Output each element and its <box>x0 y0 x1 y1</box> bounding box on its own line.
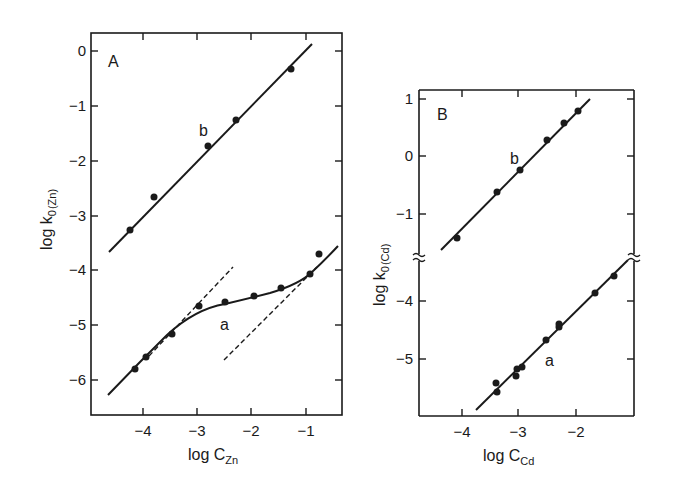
panel-b-series-a-label: a <box>545 352 554 369</box>
panel-a-ytick-label: −1 <box>69 97 86 114</box>
panel-a-xtick-label: −1 <box>297 422 314 439</box>
panel-b: −4 −3 −2 1 0 −1 −4 −5 B log CCd log k0(C… <box>371 90 640 467</box>
panel-b-x-axis-title: log CCd <box>483 447 534 467</box>
panel-a-y-ticks <box>91 51 342 380</box>
panel-b-xtick-label: −3 <box>509 423 526 440</box>
figure: −4 −3 −2 −1 0 −1 −2 −3 −4 −5 −6 A log CZ… <box>0 0 676 494</box>
panel-a-xtick-label: −3 <box>188 422 205 439</box>
panel-a-label: A <box>108 53 119 70</box>
panel-b-label: B <box>437 106 448 123</box>
panel-a-ytick-label: −6 <box>69 371 86 388</box>
panel-b-ytick-label: −4 <box>396 292 413 309</box>
panel-a-ytick-label: −2 <box>69 152 86 169</box>
panel-a-asymptote-lower <box>224 267 317 360</box>
panel-a-asymptote-upper <box>149 267 233 356</box>
panel-b-y-axis-title: log k0(Cd) <box>371 244 391 306</box>
panel-a-xtick-label: −2 <box>242 422 259 439</box>
panel-b-xtick-label: −2 <box>567 423 584 440</box>
panel-b-ytick-label: 0 <box>405 147 413 164</box>
panel-b-xtick-label: −4 <box>453 423 470 440</box>
panel-b-ytick-label: −1 <box>396 205 413 222</box>
panel-a-y-axis-title: log k0(Zn) <box>38 189 58 250</box>
panel-a-series-a-points <box>132 251 323 373</box>
panel-a-series-b-label: b <box>199 122 208 139</box>
panel-b-ytick-label: 1 <box>405 90 413 107</box>
panel-a-ytick-label: −4 <box>69 261 86 278</box>
panel-b-series-a-fit <box>476 260 628 410</box>
panel-b-axis-break-icon <box>413 254 640 262</box>
panel-a-series-a-label: a <box>220 316 229 333</box>
panel-b-ytick-label: −5 <box>396 350 413 367</box>
panel-a: −4 −3 −2 −1 0 −1 −2 −3 −4 −5 −6 A log CZ… <box>38 33 342 466</box>
panel-a-ytick-label: −5 <box>69 316 86 333</box>
panel-a-xtick-label: −4 <box>134 422 151 439</box>
panel-b-y-ticks <box>419 99 634 359</box>
panel-a-x-ticks <box>143 33 306 415</box>
panel-b-series-b-label: b <box>510 150 519 167</box>
panel-a-frame <box>91 33 342 415</box>
panel-b-series-b-fit <box>441 99 590 250</box>
panel-a-ytick-label: 0 <box>78 42 86 59</box>
panel-b-frame <box>419 90 634 416</box>
panel-a-ytick-label: −3 <box>69 207 86 224</box>
panel-b-series-a-points <box>493 273 618 396</box>
panel-a-x-axis-title: log CZn <box>188 446 238 466</box>
